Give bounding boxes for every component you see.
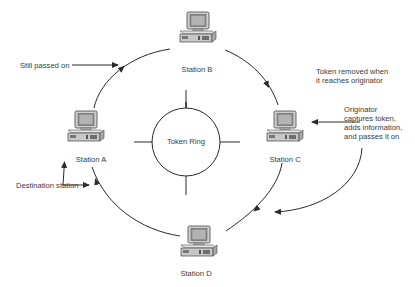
station-c-label: Station C: [269, 155, 300, 164]
computer-icon-station-a: [68, 111, 104, 141]
token-removed-label-1: Token removed when: [316, 67, 388, 76]
destination-station-label: Destination station: [16, 181, 78, 190]
arc-c-to-d: [226, 163, 282, 231]
originator-label-2: captures token,: [344, 114, 396, 123]
originator-label-4: and passes it on: [344, 132, 399, 141]
computer-icon-station-b: [180, 12, 216, 42]
station-d-label: Station D: [180, 269, 211, 278]
arc-d-to-a: [92, 167, 180, 236]
computer-icon-station-d: [181, 226, 217, 256]
still-passed-on-label: Still passed on: [20, 61, 69, 70]
arc-b-to-c: [225, 50, 278, 105]
token-ring-label: Token Ring: [167, 137, 205, 146]
station-a-label: Station A: [76, 155, 106, 164]
originator-label-1: Originator: [344, 105, 377, 114]
arc-a-to-b: [94, 49, 170, 108]
computer-icon-station-c: [267, 111, 303, 141]
originator-label-3: adds information,: [344, 123, 402, 132]
token-ring-diagram: Token Ring Station B Station A Station C…: [0, 0, 415, 287]
arrowhead-a-to-b: [120, 67, 124, 71]
arrowhead-d-to-a: [96, 179, 98, 184]
token-removed-label-2: it reaches originator: [316, 76, 383, 85]
annotation-arrows: [62, 65, 362, 212]
station-b-label: Station B: [182, 65, 213, 74]
diagram-canvas: [0, 0, 415, 287]
